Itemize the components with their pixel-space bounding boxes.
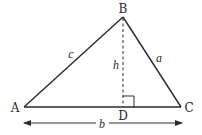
triangle-diagram: B A C D c a h b xyxy=(0,0,202,135)
altitude-label-h: h xyxy=(113,58,119,72)
side-c xyxy=(24,17,123,107)
base-label-b: b xyxy=(99,117,105,131)
side-a xyxy=(123,17,181,107)
side-label-a: a xyxy=(156,51,162,65)
vertex-label-c: C xyxy=(184,101,193,115)
side-label-c: c xyxy=(68,47,74,61)
right-angle-marker xyxy=(123,96,134,107)
vertex-label-d: D xyxy=(118,109,128,123)
vertex-label-b: B xyxy=(119,2,128,16)
vertex-label-a: A xyxy=(10,101,20,115)
